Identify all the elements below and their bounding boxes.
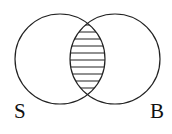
label-b: B	[150, 101, 164, 122]
circle-s	[15, 14, 105, 104]
label-s: S	[14, 101, 26, 122]
circle-b	[70, 14, 160, 104]
venn-diagram	[0, 0, 172, 134]
intersection-shading	[60, 25, 115, 95]
